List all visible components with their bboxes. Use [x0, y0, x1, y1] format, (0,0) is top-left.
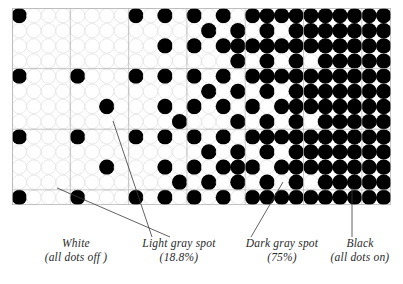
caption-black-subtitle: (all dots on) [318, 250, 402, 264]
caption-white-subtitle: (all dots off ) [22, 250, 130, 264]
caption-black-title: Black [318, 236, 402, 250]
caption-light-gray: Light gray spot (18.8%) [118, 236, 240, 265]
caption-white: White (all dots off ) [22, 236, 130, 265]
caption-light-gray-title: Light gray spot [118, 236, 240, 250]
caption-black: Black (all dots on) [318, 236, 402, 265]
caption-white-title: White [22, 236, 130, 250]
caption-light-gray-subtitle: (18.8%) [118, 250, 240, 264]
halftone-gradient-figure: White (all dots off ) Light gray spot (1… [0, 0, 403, 284]
